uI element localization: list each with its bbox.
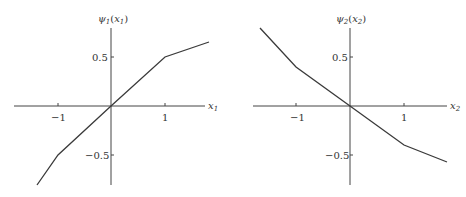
chart-canvas: −1 1 0.5 −0.5 ψ1(x1) x1 −1 1 0.5 −0.5 ψ2…: [0, 0, 466, 197]
right-ytick-label-p05: 0.5: [332, 52, 348, 63]
right-series-line: [260, 28, 447, 162]
left-xtick-label-neg1: −1: [51, 112, 66, 123]
left-xtick-label-pos1: 1: [162, 112, 168, 123]
right-xtick-label-pos1: 1: [401, 112, 407, 123]
right-xlabel: x2: [450, 100, 461, 113]
left-ytick-label-p05: 0.5: [92, 52, 108, 63]
right-chart: −1 1 0.5 −0.5 ψ2(x2) x2: [253, 13, 461, 185]
right-ytick-label-n05: −0.5: [325, 150, 349, 161]
left-xlabel: x1: [208, 100, 218, 113]
right-ylabel: ψ2(x2): [336, 13, 366, 26]
right-xtick-label-neg1: −1: [290, 112, 305, 123]
left-ytick-label-n05: −0.5: [85, 150, 109, 161]
left-ylabel: ψ1(x1): [98, 13, 128, 26]
left-chart: −1 1 0.5 −0.5 ψ1(x1) x1: [14, 13, 218, 185]
